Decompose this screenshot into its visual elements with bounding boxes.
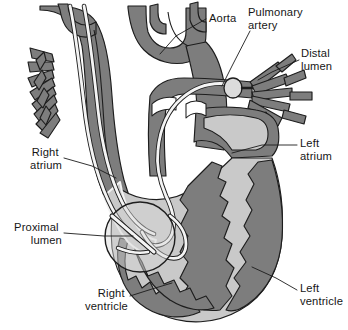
label-right-atrium: Right atrium [30, 146, 62, 171]
label-pulmonary-artery-line2: artery [248, 19, 278, 31]
label-left-atrium-line1: Left [300, 137, 320, 149]
label-proximal-lumen-line2: lumen [31, 234, 62, 246]
label-right-ventricle-line2: ventricle [85, 300, 128, 312]
label-distal-lumen-line1: Distal [301, 47, 330, 59]
label-left-atrium-line2: atrium [300, 150, 332, 162]
diagram-canvas: Aorta Pulmonary artery Distal lumen Left… [0, 0, 348, 330]
label-aorta: Aorta [209, 12, 237, 24]
heart-catheter-diagram: Aorta Pulmonary artery Distal lumen Left… [0, 0, 348, 330]
label-distal-lumen-line2: lumen [301, 60, 332, 72]
proximal-lumen-inset [105, 202, 175, 272]
label-left-ventricle-line2: ventricle [300, 295, 343, 307]
label-proximal-lumen-line1: Proximal [14, 221, 59, 233]
label-pulmonary-artery-line1: Pulmonary [248, 6, 303, 18]
catheter-balloon-tip [224, 78, 242, 98]
label-aorta-line1: Aorta [209, 12, 237, 24]
label-right-atrium-line1: Right [32, 146, 60, 158]
label-right-atrium-line2: atrium [30, 159, 62, 171]
label-left-ventricle-line1: Left [300, 282, 320, 294]
label-right-ventricle-line1: Right [98, 287, 126, 299]
label-distal-lumen: Distal lumen [301, 47, 333, 72]
